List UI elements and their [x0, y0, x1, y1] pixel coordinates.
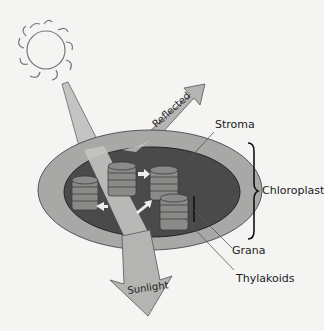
grana-stack-4 — [160, 194, 188, 230]
thylakoids-label: Thylakoids — [236, 272, 294, 285]
stroma-label: Stroma — [215, 118, 255, 131]
grana-stack-2 — [108, 162, 136, 196]
reflected-label: Reflected — [150, 90, 192, 130]
grana-label: Grana — [232, 244, 266, 257]
grana-stack-1 — [72, 176, 98, 210]
sun-icon — [19, 20, 73, 80]
chloroplast-label: Chloroplast — [262, 184, 324, 197]
